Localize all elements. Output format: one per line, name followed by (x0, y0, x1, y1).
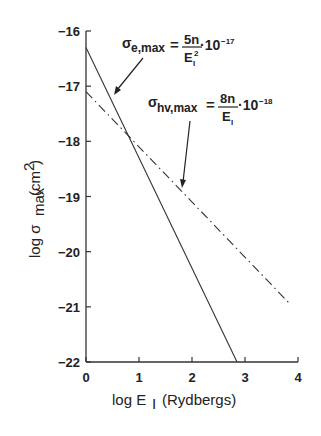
svg-text:2: 2 (194, 49, 199, 58)
x-tick-label: 3 (241, 370, 248, 385)
y-tick-label: −18 (58, 134, 80, 149)
svg-text:hv,max: hv,max (157, 101, 198, 115)
y-axis-label: log σ max (cm 2 ) (20, 160, 47, 258)
svg-text:I: I (152, 395, 156, 412)
svg-text:log E: log E (112, 391, 146, 408)
svg-text:I: I (231, 118, 233, 127)
svg-text:=: = (170, 36, 179, 53)
x-tick-label: 4 (294, 370, 302, 385)
x-ticks: 01234 (82, 357, 302, 385)
y-tick-label: −16 (58, 24, 80, 39)
svg-text:−18: −18 (259, 97, 273, 106)
svg-text:8n: 8n (220, 91, 235, 106)
x-tick-label: 1 (135, 370, 142, 385)
svg-text:·10: ·10 (200, 37, 220, 53)
x-tick-label: 0 (82, 370, 89, 385)
svg-text:=: = (206, 96, 215, 113)
y-tick-label: −19 (58, 190, 80, 205)
x-tick-label: 2 (188, 370, 195, 385)
x-axis-label: log E I (Rydbergs) (112, 391, 236, 412)
svg-text:E: E (222, 109, 231, 124)
chart: −16−17−18−19−20−21−22 01234 σ e,max = 5n… (0, 0, 321, 436)
y-tick-label: −21 (58, 300, 80, 315)
svg-text:): ) (26, 160, 43, 165)
svg-text:·10: ·10 (238, 97, 258, 113)
svg-text:(cm: (cm (26, 171, 43, 196)
svg-text:5n: 5n (184, 32, 199, 47)
y-tick-label: −17 (58, 79, 80, 94)
svg-text:E: E (184, 50, 193, 65)
y-tick-label: −22 (58, 355, 80, 370)
equation-hv: σ hv,max = 8n E I ·10 −18 (148, 91, 273, 127)
y-tick-label: −20 (58, 245, 80, 260)
series-photon-line (86, 92, 290, 304)
svg-text:I: I (193, 59, 195, 68)
svg-text:e,max: e,max (131, 41, 165, 55)
series-lines (86, 48, 290, 362)
svg-text:(Rydbergs): (Rydbergs) (162, 391, 236, 408)
annotation-arrow-e (114, 58, 143, 95)
svg-text:−17: −17 (221, 37, 235, 46)
annotation-arrow-hv (180, 121, 190, 188)
series-electron-line (86, 48, 237, 362)
svg-text:log σ: log σ (26, 224, 43, 258)
